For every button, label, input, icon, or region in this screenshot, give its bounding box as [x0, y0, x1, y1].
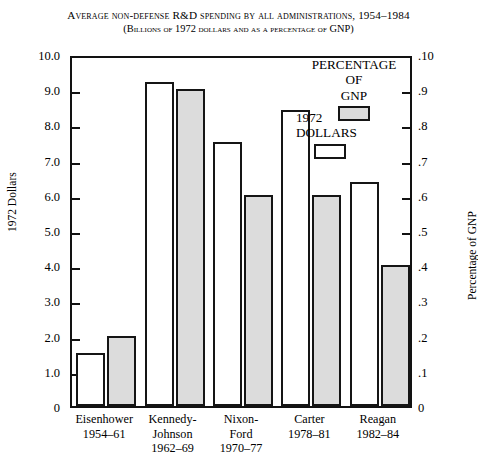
y-axis-left-tick-label: 4.0: [44, 260, 60, 275]
legend-item-1972-dollars: 1972 DOLLARS: [288, 110, 384, 159]
y-axis-left-tick: [72, 339, 80, 341]
y-axis-right-tick-label: .5: [418, 225, 427, 240]
y-axis-left-tick-label: 7.0: [44, 154, 60, 169]
y-axis-right-tick: [402, 198, 410, 200]
legend-label-percentage-line3: GNP: [292, 88, 416, 103]
y-axis-right-tick-label: .10: [418, 49, 434, 64]
y-axis-right-tick-label: .8: [418, 119, 427, 134]
y-axis-right-tick-label: .6: [418, 189, 427, 204]
y-axis-right-tick-label: 0: [418, 401, 424, 416]
chart-title-block: Average non-defense R&D spending by all …: [0, 9, 477, 34]
y-axis-left-tick-label: 3.0: [44, 295, 60, 310]
chart-title: Average non-defense R&D spending by all …: [0, 9, 477, 21]
y-axis-right-tick-label: .2: [418, 330, 427, 345]
x-axis-category-label: Nixon-Ford1970–77: [207, 412, 275, 456]
y-axis-right-tick: [402, 233, 410, 235]
y-axis-right-tick-label: .7: [418, 154, 427, 169]
y-axis-left-tick-label: 9.0: [44, 84, 60, 99]
legend-label-dollars-line2: DOLLARS: [288, 125, 384, 140]
y-axis-left-tick: [72, 268, 80, 270]
x-axis-category-label: Kennedy-Johnson1962–69: [138, 412, 206, 456]
y-axis-left-tick-label: 0: [54, 401, 60, 416]
legend-label-percentage-line1: PERCENTAGE: [292, 57, 416, 72]
legend-label-percentage-line2: OF: [292, 72, 416, 87]
y-axis-left-title: 1972 Dollars: [6, 172, 18, 232]
y-axis-left-tick: [72, 233, 80, 235]
bar-percentage-of-gnp: [176, 89, 205, 406]
bar-1972-dollars: [145, 82, 174, 406]
y-axis-left-tick-label: 5.0: [44, 225, 60, 240]
y-axis-right-tick: [402, 163, 410, 165]
y-axis-left-tick: [72, 92, 80, 94]
legend-swatch-1972-dollars: [314, 144, 346, 159]
y-axis-right-tick-label: .1: [418, 365, 427, 380]
y-axis-left-tick-label: 6.0: [44, 189, 60, 204]
bar-1972-dollars: [76, 353, 105, 406]
y-axis-right-tick-label: .3: [418, 295, 427, 310]
y-axis-right-tick-label: .4: [418, 260, 427, 275]
bar-1972-dollars: [213, 142, 242, 406]
y-axis-left-tick: [72, 163, 80, 165]
y-axis-right-tick: [402, 127, 410, 129]
legend-label-dollars-line1: 1972: [288, 110, 384, 125]
y-axis-left-tick-label: 2.0: [44, 330, 60, 345]
y-axis-left-tick-label: 10.0: [38, 49, 60, 64]
x-axis-category-label: Reagan1982–84: [344, 412, 412, 441]
bar-1972-dollars: [350, 182, 379, 406]
bar-percentage-of-gnp: [244, 195, 273, 406]
y-axis-left-tick: [72, 303, 80, 305]
y-axis-left-tick: [72, 198, 80, 200]
bar-percentage-of-gnp: [312, 195, 341, 406]
y-axis-right-tick-label: .9: [418, 84, 427, 99]
x-axis-category-label: Eisenhower1954–61: [70, 412, 138, 441]
bar-percentage-of-gnp: [107, 336, 136, 406]
bar-percentage-of-gnp: [381, 265, 410, 406]
chart-subtitle: (Billions of 1972 dollars and as a perce…: [0, 23, 477, 34]
y-axis-left-tick-label: 1.0: [44, 365, 60, 380]
y-axis-left-tick-label: 8.0: [44, 119, 60, 134]
y-axis-left-tick: [72, 127, 80, 129]
x-axis-category-label: Carter1978–81: [275, 412, 343, 441]
y-axis-right-title: Percentage of GNP: [466, 211, 478, 300]
